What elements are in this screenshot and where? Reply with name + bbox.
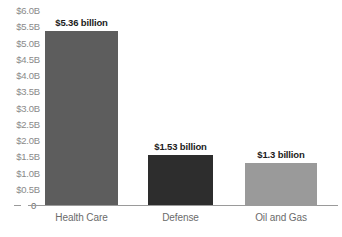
bar-chart: $6.0B$5.5B$5.0B$4.5B$4.0B$3.5B$3.0B$2.5B… bbox=[0, 0, 342, 237]
bar-value-label: $5.36 billion bbox=[20, 17, 143, 28]
bar-health-care[interactable] bbox=[45, 31, 118, 205]
bar-oil-and-gas[interactable] bbox=[245, 163, 317, 205]
bar-defense[interactable] bbox=[148, 155, 213, 205]
x-axis-baseline bbox=[28, 205, 338, 206]
bar-value-label: $1.3 billion bbox=[220, 149, 342, 160]
category-label-oil-and-gas: Oil and Gas bbox=[220, 212, 342, 223]
plot-area: $5.36 billionHealth Care$1.53 billionDef… bbox=[0, 0, 342, 237]
